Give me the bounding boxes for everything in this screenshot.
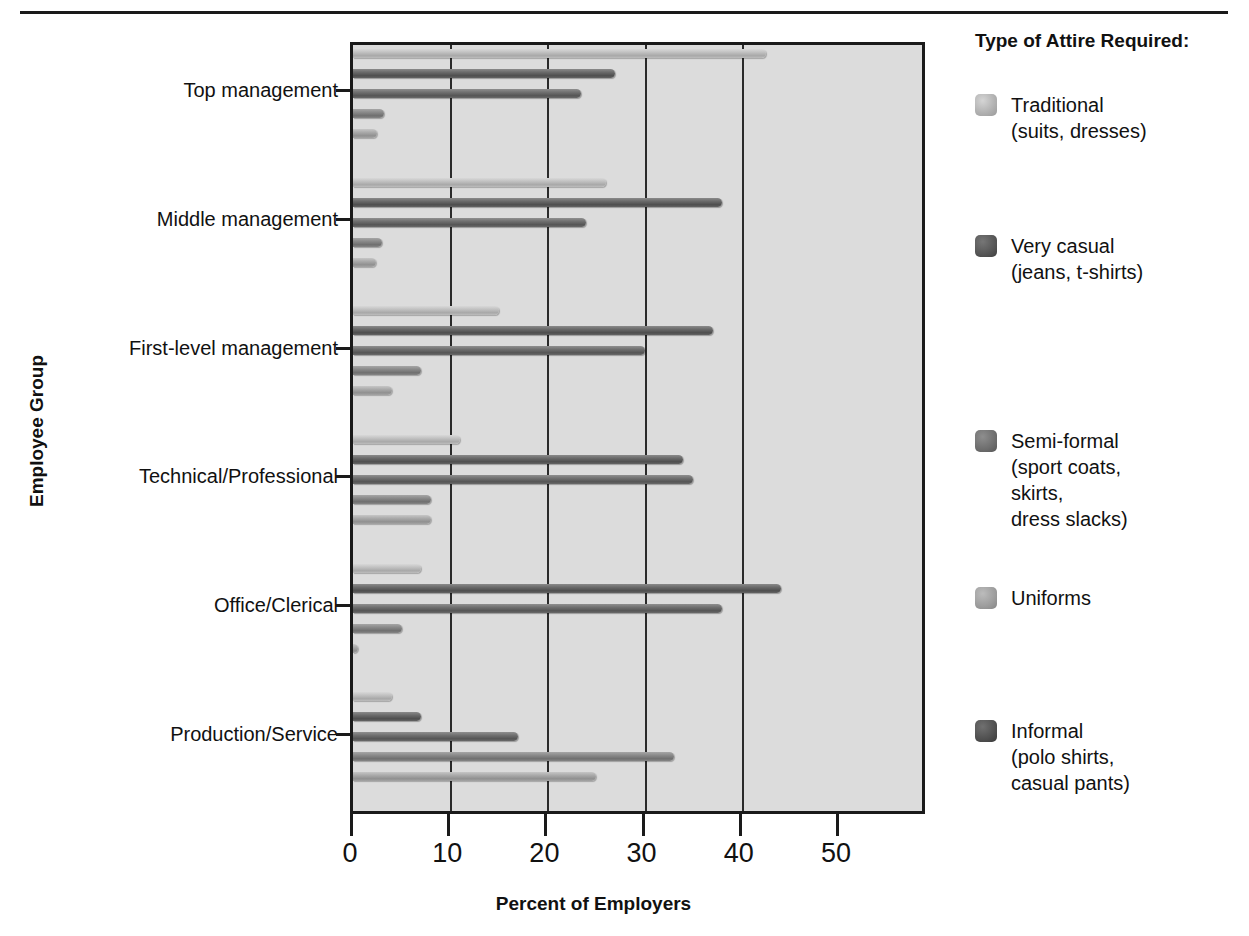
legend-swatch-icon <box>975 430 997 452</box>
bar <box>353 455 683 464</box>
bar <box>353 752 674 761</box>
x-axis-ticks: 01020304050 <box>350 814 925 884</box>
bar <box>353 346 645 355</box>
bar <box>353 712 421 721</box>
bar <box>353 326 713 335</box>
bar <box>353 772 596 781</box>
bar <box>353 435 460 444</box>
bar <box>353 238 382 247</box>
x-tick-label: 0 <box>320 838 380 868</box>
bar <box>353 69 615 78</box>
bar <box>353 218 586 227</box>
legend-item[interactable]: Semi-formal (sport coats, skirts, dress … <box>975 428 1128 532</box>
legend-item-label: Informal (polo shirts, casual pants) <box>1011 718 1130 796</box>
bar <box>353 564 421 573</box>
legend-swatch-icon <box>975 587 997 609</box>
gridline-10 <box>450 45 452 811</box>
category-label: Middle management <box>8 209 338 229</box>
bar <box>353 584 781 593</box>
bar <box>353 366 421 375</box>
bar <box>353 692 392 701</box>
bar <box>353 89 581 98</box>
x-tick-label: 10 <box>417 838 477 868</box>
bar <box>353 178 606 187</box>
category-label: Top management <box>8 80 338 100</box>
bar <box>353 258 376 267</box>
x-tick-50 <box>836 814 839 836</box>
bar <box>353 109 384 118</box>
category-axis-labels: Top managementMiddle managementFirst-lev… <box>0 0 338 936</box>
legend-item[interactable]: Uniforms <box>975 585 1091 611</box>
bar <box>353 515 431 524</box>
legend-swatch-icon <box>975 235 997 257</box>
legend-item[interactable]: Informal (polo shirts, casual pants) <box>975 718 1130 796</box>
category-tick <box>336 475 351 478</box>
legend-item-label: Traditional (suits, dresses) <box>1011 92 1147 144</box>
gridline-20 <box>547 45 549 811</box>
x-tick-label: 40 <box>709 838 769 868</box>
x-tick-20 <box>544 814 547 836</box>
category-label: Technical/Professional <box>8 466 338 486</box>
x-tick-10 <box>447 814 450 836</box>
gridline-30 <box>645 45 647 811</box>
bar <box>353 198 722 207</box>
x-tick-30 <box>642 814 645 836</box>
category-tick <box>336 89 351 92</box>
bar <box>353 475 693 484</box>
bar <box>353 495 431 504</box>
category-label: Office/Clerical <box>8 595 338 615</box>
category-tick <box>336 347 351 350</box>
category-label: Production/Service <box>8 724 338 744</box>
bar <box>353 732 518 741</box>
legend-item-label: Very casual (jeans, t-shirts) <box>1011 233 1143 285</box>
category-label: First-level management <box>8 338 338 358</box>
bar <box>353 49 766 58</box>
bar <box>353 624 402 633</box>
legend-item-label: Uniforms <box>1011 585 1091 611</box>
gridline-40 <box>742 45 744 811</box>
legend-swatch-icon <box>975 720 997 742</box>
x-tick-label: 50 <box>806 838 866 868</box>
bar <box>353 129 377 138</box>
legend-swatch-icon <box>975 94 997 116</box>
category-tick <box>336 218 351 221</box>
x-tick-label: 30 <box>612 838 672 868</box>
bar <box>353 644 358 653</box>
legend-title: Type of Attire Required: <box>975 30 1245 52</box>
x-tick-40 <box>739 814 742 836</box>
x-axis-title: Percent of Employers <box>350 893 837 915</box>
bar <box>353 604 722 613</box>
bar <box>353 386 392 395</box>
category-tick <box>336 733 351 736</box>
legend-item[interactable]: Traditional (suits, dresses) <box>975 92 1147 144</box>
plot-area <box>350 42 925 814</box>
legend: Type of Attire Required: Traditional (su… <box>975 30 1245 60</box>
legend-item-label: Semi-formal (sport coats, skirts, dress … <box>1011 428 1128 532</box>
x-tick-label: 20 <box>514 838 574 868</box>
legend-item[interactable]: Very casual (jeans, t-shirts) <box>975 233 1143 285</box>
bar <box>353 306 499 315</box>
category-tick <box>336 604 351 607</box>
x-tick-0 <box>350 814 353 836</box>
